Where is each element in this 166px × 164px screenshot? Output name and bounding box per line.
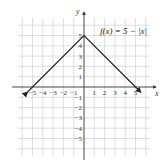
y-tick-label: 3 — [79, 53, 83, 61]
function-graph: x y −5−4−3−2−11234554321−1−2−3−4−5 f(x) … — [0, 0, 166, 164]
x-tick-label: 3 — [113, 89, 117, 97]
y-tick-label: −3 — [75, 114, 83, 122]
x-tick-label: −2 — [60, 89, 68, 97]
y-tick-label: 1 — [79, 73, 83, 81]
x-tick-label: 5 — [134, 89, 138, 97]
tick-labels: −5−4−3−2−11234554321−1−2−3−4−5 — [29, 32, 138, 143]
y-tick-label: −2 — [75, 104, 83, 112]
x-tick-label: 1 — [93, 89, 97, 97]
y-axis-label: y — [75, 7, 80, 16]
x-axis-label: x — [154, 89, 159, 98]
y-tick-label: 4 — [79, 42, 83, 50]
y-tick-label: −1 — [75, 94, 83, 102]
y-tick-label: −4 — [75, 125, 83, 133]
x-tick-label: 4 — [123, 89, 127, 97]
y-tick-label: 2 — [79, 63, 83, 71]
x-tick-label: −4 — [39, 89, 47, 97]
x-tick-label: −3 — [49, 89, 57, 97]
x-tick-label: 2 — [103, 89, 107, 97]
y-tick-label: −5 — [75, 135, 83, 143]
function-label: f(x) = 5 − |x| — [100, 26, 147, 36]
